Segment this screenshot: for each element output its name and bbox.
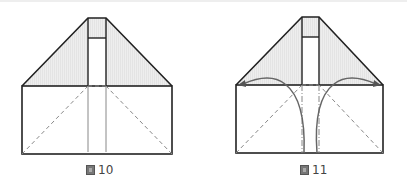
figure-glyph-icon: [300, 165, 309, 175]
figure-10-number: 10: [98, 163, 113, 177]
figure-10-diagram: [0, 0, 407, 193]
figure-glyph-icon: [86, 165, 95, 175]
figure-11-caption: 11: [300, 163, 327, 177]
fig11-rectangle: [236, 85, 383, 153]
fig10-rectangle: [22, 86, 172, 154]
fig10-top-flap: [22, 18, 172, 86]
figure-11-number: 11: [312, 163, 327, 177]
fig11-top-flap: [236, 17, 383, 85]
figure-10-caption: 10: [86, 163, 113, 177]
